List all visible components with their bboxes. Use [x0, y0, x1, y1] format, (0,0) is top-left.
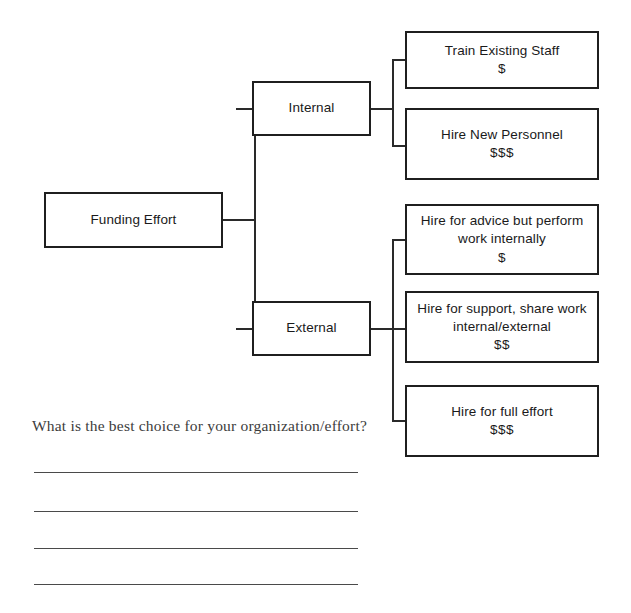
answer-line[interactable] — [34, 472, 358, 473]
connector-trunk-vertical — [254, 108, 256, 329]
connector-external-to-support — [392, 328, 406, 330]
node-funding-effort: Funding Effort — [44, 192, 223, 248]
node-train-existing-staff-label: Train Existing Staff — [445, 42, 560, 60]
answer-line[interactable] — [34, 511, 358, 512]
worksheet-page: Funding Effort Internal External Train E… — [0, 0, 631, 613]
connector-internal-to-hire-new — [392, 145, 406, 147]
worksheet-question: What is the best choice for your organiz… — [32, 417, 392, 435]
connector-external-to-advice — [392, 239, 406, 241]
connector-internal-to-train — [392, 59, 406, 61]
node-hire-for-advice: Hire for advice but perform work interna… — [405, 204, 599, 275]
node-hire-for-support-cost: $$ — [494, 336, 510, 354]
node-hire-new-personnel-label: Hire New Personnel — [441, 126, 563, 144]
node-train-existing-staff-cost: $ — [498, 60, 506, 78]
node-internal-label: Internal — [289, 99, 335, 117]
connector-internal-bus — [392, 59, 394, 147]
node-train-existing-staff: Train Existing Staff $ — [405, 31, 599, 89]
node-hire-for-advice-label-line1: Hire for advice but perform — [421, 212, 584, 230]
node-hire-new-personnel: Hire New Personnel $$$ — [405, 108, 599, 180]
connector-internal-out — [371, 108, 393, 110]
node-hire-for-full-effort: Hire for full effort $$$ — [405, 385, 599, 457]
node-hire-for-support-label-line1: Hire for support, share work — [417, 300, 586, 318]
node-external-label: External — [286, 319, 336, 337]
node-internal: Internal — [252, 81, 371, 136]
connector-external-to-full — [392, 420, 406, 422]
node-hire-for-support: Hire for support, share work internal/ex… — [405, 291, 599, 363]
answer-line[interactable] — [34, 584, 358, 585]
node-hire-new-personnel-cost: $$$ — [490, 144, 514, 162]
connector-root-to-trunk — [223, 219, 255, 221]
connector-external-bus — [392, 239, 394, 421]
node-hire-for-advice-label-line2: work internally — [458, 230, 546, 248]
node-hire-for-full-effort-cost: $$$ — [490, 421, 514, 439]
connector-external-out — [371, 328, 393, 330]
node-hire-for-support-label-line2: internal/external — [453, 318, 551, 336]
node-hire-for-advice-cost: $ — [498, 249, 506, 267]
node-hire-for-full-effort-label: Hire for full effort — [451, 403, 553, 421]
node-funding-effort-label: Funding Effort — [91, 211, 177, 229]
answer-line[interactable] — [34, 548, 358, 549]
node-external: External — [252, 301, 371, 356]
